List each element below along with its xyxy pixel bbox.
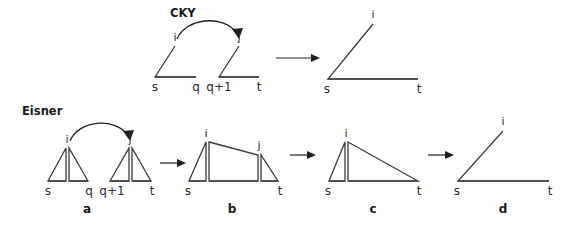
cky-right-start-label: q+1 xyxy=(206,80,231,94)
panel-c-apex-i-label: i xyxy=(344,127,347,140)
eisner-arrow-b-to-c-head xyxy=(307,151,316,159)
cky-result-triangle: i s t xyxy=(324,8,422,96)
eisner-row-title: Eisner xyxy=(22,104,63,118)
eisner-panel-d: i s t d xyxy=(454,115,553,216)
cky-dependency-arc xyxy=(177,21,243,39)
panel-a-label-t: t xyxy=(150,184,155,198)
eisner-arrow-a-to-b-head xyxy=(177,159,186,167)
panel-c-label-s: s xyxy=(325,184,331,198)
panel-c-caption: c xyxy=(369,202,376,216)
panel-a-caption: a xyxy=(83,202,91,216)
eisner-panel-c: i s t c xyxy=(325,127,422,216)
panel-b-label-s: s xyxy=(185,184,191,198)
panel-a-left-apex-label: i xyxy=(65,133,68,146)
cky-result-end-label: t xyxy=(417,82,422,96)
eisner-arrow-c-to-d-head xyxy=(445,151,454,159)
eisner-arrow-b-to-c xyxy=(290,151,316,159)
eisner-arrow-c-to-d xyxy=(428,151,454,159)
cky-right-end-label: t xyxy=(257,80,262,94)
panel-b-label-t: t xyxy=(278,184,283,198)
cky-transition-arrowhead xyxy=(311,54,320,62)
panel-b-apex-i-label: i xyxy=(204,127,207,140)
panel-d-label-t: t xyxy=(548,184,553,198)
panel-b-caption: b xyxy=(228,202,237,216)
cky-result-apex-label: i xyxy=(371,8,374,21)
panel-d-label-s: s xyxy=(454,184,460,198)
panel-a-label-q: q xyxy=(85,184,93,198)
cky-result-start-label: s xyxy=(324,82,330,96)
panel-a-label-qplus1: q+1 xyxy=(99,184,124,198)
cky-triangle-left: i s q xyxy=(152,31,200,94)
eisner-arrow-a-to-b xyxy=(160,159,186,167)
cky-transition-arrow xyxy=(276,54,320,62)
eisner-dependency-arc xyxy=(70,123,134,141)
panel-b-apex-j-label: j xyxy=(256,139,260,152)
panel-d-apex-i-label: i xyxy=(501,115,504,128)
cky-left-apex-label: i xyxy=(173,31,176,44)
cky-triangle-right: j q+1 t xyxy=(206,31,261,94)
panel-a-right-apex-label: j xyxy=(127,133,131,146)
panel-c-label-t: t xyxy=(417,184,422,198)
parsing-rules-diagram: CKY i s q j q+1 t i s t Eisner xyxy=(0,0,570,225)
cky-left-end-label: q xyxy=(192,80,200,94)
cky-row-title: CKY xyxy=(170,6,196,20)
eisner-panel-b: i j s t b xyxy=(185,127,283,216)
eisner-panel-a: i s q j q+1 t a xyxy=(45,133,155,216)
cky-left-start-label: s xyxy=(152,80,158,94)
panel-a-label-s: s xyxy=(45,184,51,198)
panel-d-caption: d xyxy=(499,202,508,216)
cky-right-apex-label: j xyxy=(236,31,240,44)
